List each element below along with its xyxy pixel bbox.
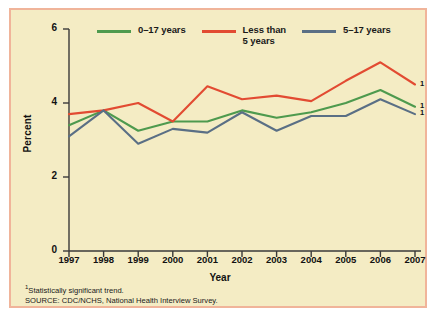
legend-label-0-17-years: 0–17 years bbox=[138, 25, 186, 36]
y-tick-label-6: 6 bbox=[35, 22, 57, 33]
y-tick-label-4: 4 bbox=[35, 96, 57, 107]
chart-axes bbox=[63, 29, 421, 257]
legend-swatch-green bbox=[97, 30, 131, 33]
footnote-significance: 1Statistically significant trend. bbox=[25, 282, 415, 296]
chart-series-lines bbox=[69, 62, 415, 143]
y-axis-title: Percent bbox=[22, 104, 33, 164]
footnote-significance-text: Statistically significant trend. bbox=[28, 286, 123, 295]
legend-swatch-red bbox=[202, 30, 236, 33]
legend-label-less-than-5-years: Less than 5 years bbox=[243, 25, 286, 46]
y-tick-label-2: 2 bbox=[35, 170, 57, 181]
endpoint-footnote-marker-2: 1 bbox=[420, 108, 424, 117]
legend-entry-0-17-years: 0–17 years bbox=[97, 25, 186, 36]
chart-figure: 0–17 years Less than 5 years 5–17 years … bbox=[9, 8, 427, 308]
endpoint-footnote-marker-1: 1 bbox=[420, 79, 424, 88]
legend-swatch-blue bbox=[302, 30, 336, 33]
footnote-source: SOURCE: CDC/NCHS, National Health Interv… bbox=[25, 296, 415, 306]
legend-entry-less-than-5-years: Less than 5 years bbox=[202, 25, 286, 46]
chart-legend: 0–17 years Less than 5 years 5–17 years bbox=[97, 25, 417, 59]
chart-footnotes: 1Statistically significant trend. SOURCE… bbox=[25, 282, 415, 306]
legend-label-5-17-years: 5–17 years bbox=[343, 25, 391, 36]
legend-entry-5-17-years: 5–17 years bbox=[302, 25, 391, 36]
x-tick-label-2007: 2007 bbox=[395, 254, 435, 265]
